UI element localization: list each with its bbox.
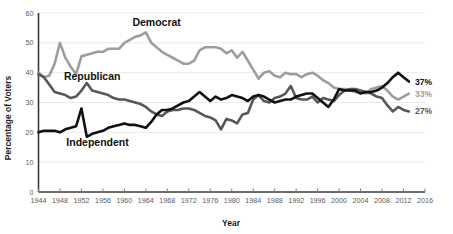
series-label-independent: Independent: [66, 136, 129, 148]
y-axis-title: Percentage of Voters: [3, 76, 13, 161]
x-tick-label-2012: 2012: [396, 196, 412, 205]
x-axis-title: Year: [222, 218, 241, 228]
x-tick-label-1952: 1952: [73, 196, 89, 205]
y-tick-label-20: 20: [26, 128, 34, 137]
x-tick-label-2000: 2000: [331, 196, 347, 205]
end-label-independent: 37%: [415, 77, 433, 87]
series-inline-labels: DemocratRepublicanIndependent: [64, 16, 181, 147]
x-tick-label-1980: 1980: [224, 196, 240, 205]
x-tick-label-1948: 1948: [52, 196, 68, 205]
x-tick-label-2008: 2008: [374, 196, 390, 205]
series-label-republican: Republican: [64, 70, 121, 82]
end-label-republican: 27%: [415, 106, 433, 116]
y-tick-label-50: 50: [26, 38, 34, 47]
x-tick-label-1960: 1960: [116, 196, 132, 205]
x-tick-label-1976: 1976: [202, 196, 218, 205]
series-line-republican: [39, 74, 409, 129]
y-axis-tick-labels: 0102030405060: [26, 9, 34, 197]
series-line-independent: [39, 73, 409, 137]
y-tick-label-40: 40: [26, 68, 34, 77]
y-tick-label-60: 60: [26, 9, 34, 18]
x-tick-label-1964: 1964: [138, 196, 154, 205]
series-end-value-labels: 33%27%37%: [415, 77, 433, 117]
x-tick-label-1984: 1984: [245, 196, 261, 205]
x-tick-label-2004: 2004: [353, 196, 369, 205]
data-series-group: [39, 32, 409, 136]
x-tick-label-1968: 1968: [159, 196, 175, 205]
x-tick-label-1996: 1996: [310, 196, 326, 205]
series-label-democrat: Democrat: [132, 16, 181, 28]
y-tick-label-30: 30: [26, 98, 34, 107]
x-tick-label-1988: 1988: [267, 196, 283, 205]
chart-canvas: 0102030405060 19441948195219561960196419…: [0, 0, 453, 234]
y-tick-label-10: 10: [26, 158, 34, 167]
x-axis-tick-labels: 1944194819521956196019641968197219761980…: [31, 196, 434, 205]
x-tick-label-1944: 1944: [31, 196, 47, 205]
x-tick-label-1992: 1992: [288, 196, 304, 205]
x-tick-label-1972: 1972: [181, 196, 197, 205]
x-tick-label-1956: 1956: [95, 196, 111, 205]
x-tick-label-2016: 2016: [417, 196, 433, 205]
political-affiliation-line-chart: 0102030405060 19441948195219561960196419…: [0, 0, 453, 234]
end-label-democrat: 33%: [415, 89, 433, 99]
